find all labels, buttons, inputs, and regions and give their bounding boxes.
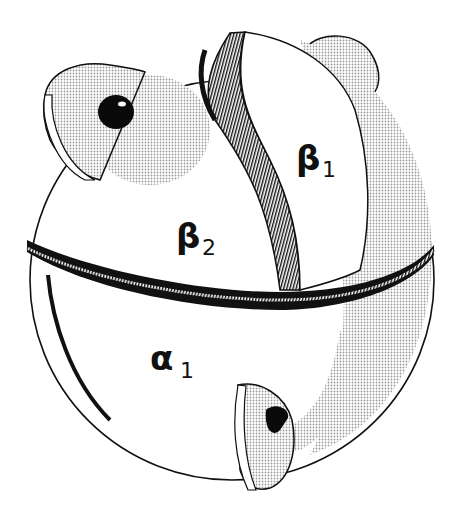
beta1-letter: β	[296, 138, 320, 178]
beta2-letter: β	[176, 216, 200, 256]
beta2-subscript: 2	[202, 235, 216, 260]
alpha1-subscript: 1	[180, 358, 194, 383]
beta1-subscript: 1	[322, 157, 336, 182]
alpha1-letter: α	[150, 338, 173, 378]
molecule-diagram: β 1 β 2 α 1	[0, 0, 458, 519]
iron-atom-top	[98, 95, 134, 129]
